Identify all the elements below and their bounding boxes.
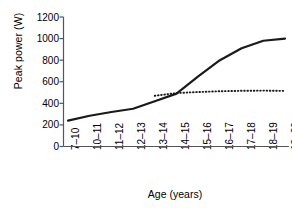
plot-area	[0, 0, 292, 208]
axis-lines	[64, 17, 290, 147]
series-solid-line	[68, 39, 285, 121]
peak-power-chart: Peak power (W) 1200 1000 800 600 400 200…	[0, 0, 292, 208]
